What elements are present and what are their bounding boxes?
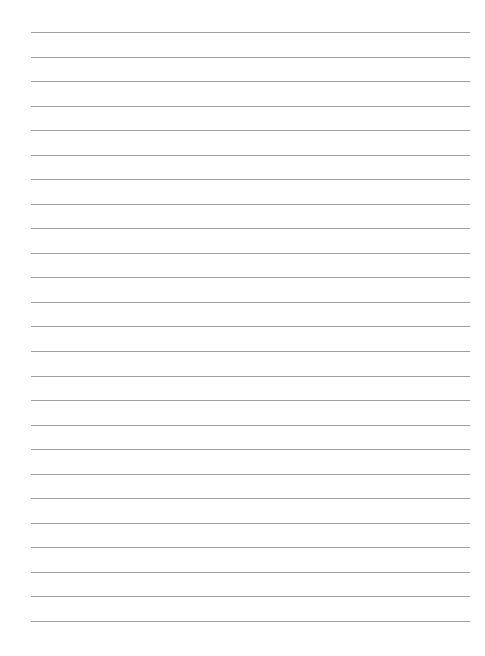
ruled-line bbox=[31, 474, 470, 475]
ruled-line bbox=[31, 57, 470, 58]
ruled-line bbox=[31, 32, 470, 33]
ruled-line bbox=[31, 179, 470, 180]
ruled-line bbox=[31, 547, 470, 548]
ruled-line bbox=[31, 155, 470, 156]
ruled-line bbox=[31, 400, 470, 401]
ruled-line bbox=[31, 277, 470, 278]
ruled-line bbox=[31, 572, 470, 573]
ruled-line bbox=[31, 228, 470, 229]
ruled-line bbox=[31, 498, 470, 499]
ruled-line bbox=[31, 523, 470, 524]
ruled-line bbox=[31, 376, 470, 377]
ruled-line bbox=[31, 621, 470, 622]
ruled-line bbox=[31, 449, 470, 450]
ruled-line bbox=[31, 351, 470, 352]
lined-paper-page bbox=[0, 0, 485, 656]
ruled-line bbox=[31, 81, 470, 82]
ruled-line bbox=[31, 253, 470, 254]
ruled-line bbox=[31, 596, 470, 597]
ruled-line bbox=[31, 302, 470, 303]
ruled-line bbox=[31, 130, 470, 131]
ruled-line bbox=[31, 204, 470, 205]
ruled-line bbox=[31, 326, 470, 327]
ruled-line bbox=[31, 425, 470, 426]
ruled-line bbox=[31, 106, 470, 107]
